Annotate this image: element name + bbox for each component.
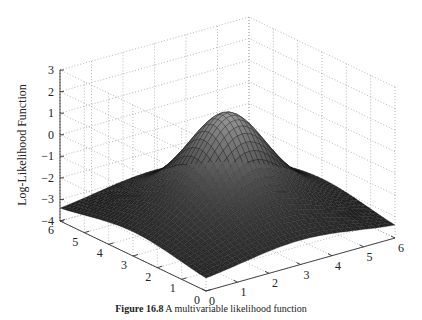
z-axis-label: Log-Likelihood Function (15, 84, 29, 206)
z-tick-label: −3 (41, 192, 54, 206)
x-tick-label: 2 (272, 276, 278, 290)
z-tick-label: 3 (48, 63, 54, 77)
z-tick-label: 1 (48, 106, 54, 120)
y-tick-label: 5 (72, 235, 78, 249)
x-tick-label: 1 (241, 285, 247, 299)
caption-text: A multivariable likelihood function (165, 303, 306, 314)
x-tick-label: 6 (398, 241, 404, 255)
z-tick-label: −2 (41, 171, 54, 185)
y-tick-label: 6 (48, 223, 54, 237)
figure-caption: Figure 16.8 A multivariable likelihood f… (0, 303, 422, 314)
z-tick-label: 2 (48, 85, 54, 99)
caption-label: Figure 16.8 (115, 303, 163, 314)
z-tick-label: 0 (48, 128, 54, 142)
y-tick-label: 2 (145, 270, 151, 284)
x-tick-label: 3 (304, 268, 310, 282)
x-tick-label: 5 (367, 250, 373, 264)
y-tick-label: 3 (121, 258, 127, 272)
x-tick-label: 4 (335, 259, 341, 273)
surface-mesh (60, 112, 395, 278)
surface-plot: −4−3−2−1012301234560123456 Log-Likelihoo… (0, 0, 422, 320)
y-tick-label: 4 (97, 246, 103, 260)
z-tick-label: −1 (41, 149, 54, 163)
y-tick-label: 1 (170, 281, 176, 295)
